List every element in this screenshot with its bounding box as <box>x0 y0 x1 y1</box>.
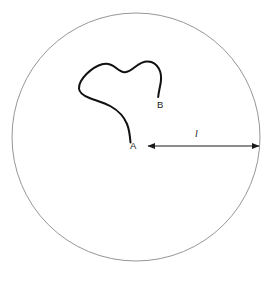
length-label: l <box>195 129 198 139</box>
diagram-canvas <box>0 0 273 281</box>
irregular-curve <box>79 61 161 142</box>
figure-container: A B l <box>0 0 273 281</box>
bounding-circle <box>12 13 260 261</box>
point-b-label: B <box>157 100 163 110</box>
measure-arrowhead-left <box>148 143 156 149</box>
measure-arrowhead-right <box>252 143 260 149</box>
point-a-label: A <box>130 141 136 151</box>
radius-measure-arrow <box>148 143 260 149</box>
